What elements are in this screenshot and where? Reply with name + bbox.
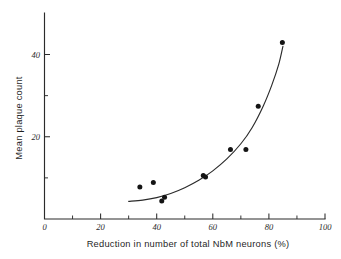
x-tick-label: 80 xyxy=(265,222,274,232)
x-tick-label: 100 xyxy=(319,222,333,232)
x-tick-label: 40 xyxy=(152,222,161,232)
y-axis-tick-labels: 2040 xyxy=(32,50,41,142)
y-tick-label: 40 xyxy=(32,50,41,60)
data-point xyxy=(151,180,156,185)
data-point xyxy=(228,147,233,152)
x-tick-label: 60 xyxy=(209,222,218,232)
x-axis-label: Reduction in number of total NbM neurons… xyxy=(87,239,290,249)
x-tick-label: 20 xyxy=(96,222,105,232)
scatter-plot: 020406080100 2040 Reduction in number of… xyxy=(0,0,341,259)
data-point xyxy=(203,175,208,180)
figure-container: 020406080100 2040 Reduction in number of… xyxy=(0,0,341,259)
y-tick-label: 20 xyxy=(32,132,41,142)
data-point xyxy=(137,184,142,189)
data-point xyxy=(280,40,285,45)
x-tick-label: 0 xyxy=(42,222,47,232)
x-axis-tick-labels: 020406080100 xyxy=(42,222,332,232)
data-point xyxy=(243,147,248,152)
y-axis-ticks xyxy=(45,55,51,178)
y-axis-label: Mean plaque count xyxy=(14,76,24,159)
data-point xyxy=(256,104,261,109)
x-axis-ticks xyxy=(45,214,326,220)
data-points xyxy=(137,40,284,203)
data-point xyxy=(162,195,167,200)
